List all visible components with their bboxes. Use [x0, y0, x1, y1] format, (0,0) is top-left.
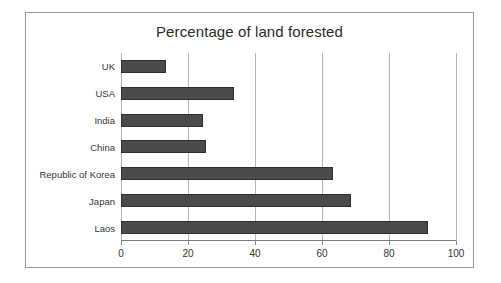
tick-mark-40	[255, 241, 256, 245]
tick-mark-60	[322, 241, 323, 245]
tick-mark-100	[456, 241, 457, 245]
bar-row: Republic of Korea	[121, 160, 456, 187]
bar: UK	[121, 60, 166, 73]
tick-mark-0	[121, 241, 122, 245]
category-label: USA	[95, 88, 115, 99]
x-axis-line	[121, 240, 456, 241]
category-label: India	[94, 115, 115, 126]
tick-mark-80	[389, 241, 390, 245]
figure-frame: Percentage of land forested UKUSAIndiaCh…	[25, 12, 474, 268]
chart-title: Percentage of land forested	[26, 23, 473, 40]
bar-row: Laos	[121, 214, 456, 241]
x-tick-label: 100	[448, 248, 465, 259]
category-label: UK	[102, 61, 115, 72]
x-tick-label: 20	[182, 248, 193, 259]
tick-mark-20	[188, 241, 189, 245]
x-tick-label: 0	[118, 248, 124, 259]
chart-screenshot: Percentage of land forested UKUSAIndiaCh…	[0, 0, 501, 283]
category-label: Japan	[89, 195, 115, 206]
bar-row: USA	[121, 80, 456, 107]
category-label: Laos	[94, 222, 115, 233]
bar: India	[121, 114, 203, 127]
bar: Japan	[121, 194, 351, 207]
category-label: China	[90, 141, 115, 152]
bar-row: Japan	[121, 187, 456, 214]
x-tick-label: 60	[316, 248, 327, 259]
bar-row: UK	[121, 53, 456, 80]
bar: Republic of Korea	[121, 167, 333, 180]
x-tick-label: 40	[249, 248, 260, 259]
bar: China	[121, 140, 206, 153]
plot-area: UKUSAIndiaChinaRepublic of KoreaJapanLao…	[121, 53, 456, 241]
bar-row: India	[121, 107, 456, 134]
category-label: Republic of Korea	[39, 168, 115, 179]
bar: Laos	[121, 221, 428, 234]
bar-row: China	[121, 134, 456, 161]
gridline-100	[456, 53, 457, 241]
x-tick-label: 80	[383, 248, 394, 259]
bar: USA	[121, 87, 234, 100]
